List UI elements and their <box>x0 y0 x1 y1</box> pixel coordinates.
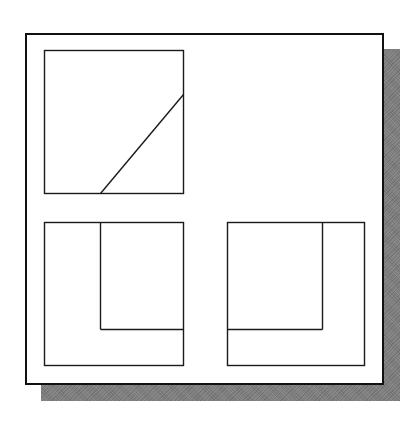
front-view-outline <box>45 223 184 366</box>
orthographic-views <box>0 0 418 424</box>
front-view <box>45 223 184 366</box>
side-view-outline <box>228 223 365 366</box>
top-view-outline <box>45 51 184 194</box>
top-view <box>45 51 184 194</box>
side-view <box>228 223 365 366</box>
inclined-edge <box>101 95 184 194</box>
